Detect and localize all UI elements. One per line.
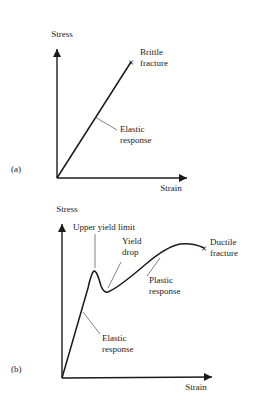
panel-a: StressStrainElasticresponse×Brittlefract…	[11, 29, 187, 193]
brittle-fracture-marker: ×	[128, 57, 134, 68]
x-axis-line	[62, 377, 212, 378]
y-axis-label: Stress	[51, 29, 73, 39]
ductile-fracture-marker-label: Ductilefracture	[210, 237, 238, 258]
yield-drop-label-leader	[108, 262, 121, 288]
y-axis-label: Stress	[56, 204, 78, 214]
x-axis-label: Strain	[185, 382, 207, 392]
stress-strain-figure: StressStrainElasticresponse×Brittlefract…	[0, 0, 257, 416]
figure-canvas: StressStrainElasticresponse×Brittlefract…	[0, 0, 257, 416]
elastic-response-label-a: Elasticresponse	[120, 124, 152, 145]
stress-strain-curve	[62, 244, 204, 378]
panel-b: StressStrainUpper yield limitYielddropPl…	[11, 204, 238, 392]
elastic-response-label-b-leader	[83, 312, 100, 334]
ductile-fracture-marker: ×	[201, 243, 207, 254]
brittle-fracture-marker-label: Brittlefracture	[140, 47, 168, 68]
panel-a-tag: (a)	[11, 164, 21, 174]
elastic-response-label-a-leader	[95, 117, 117, 130]
panel-b-tag: (b)	[11, 364, 22, 374]
yield-drop-label: Yielddrop	[122, 236, 142, 257]
stress-strain-curve	[57, 62, 131, 178]
panels-group: StressStrainElasticresponse×Brittlefract…	[11, 29, 238, 392]
upper-yield-limit-label: Upper yield limit	[73, 222, 135, 232]
x-axis-label: Strain	[160, 183, 182, 193]
plastic-response-label: Plasticresponse	[149, 275, 181, 296]
elastic-response-label-b: Elasticresponse	[102, 333, 134, 354]
